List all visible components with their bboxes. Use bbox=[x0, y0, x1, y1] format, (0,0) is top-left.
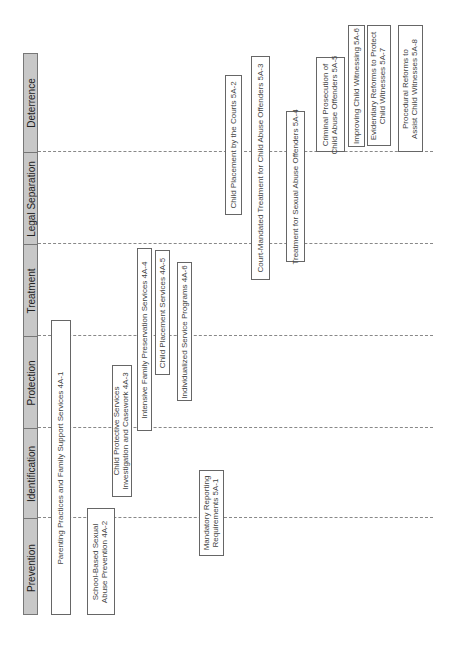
header-label: Deterrence bbox=[25, 78, 36, 127]
dashed-divider bbox=[38, 243, 433, 244]
program-label: Treatment for Sexual Abuse Offenders 5A-… bbox=[291, 109, 300, 264]
program-label: Evidentiary Reforms to Protect Child Wit… bbox=[370, 31, 388, 139]
program-label: Individualized Service Programs 4A-6 bbox=[180, 265, 189, 398]
program-box-4a-6: Individualized Service Programs 4A-6 bbox=[177, 262, 192, 401]
program-box-5a-5: Criminal Prosecution of Child Abuse Offe… bbox=[316, 57, 345, 152]
program-label: Intensive Family Preservation Services 4… bbox=[140, 261, 149, 418]
header-identification: Identification bbox=[24, 428, 37, 518]
program-box-5a-4: Treatment for Sexual Abuse Offenders 5A-… bbox=[286, 111, 305, 262]
program-label: Improving Child Witnessing 5A-6 bbox=[352, 28, 361, 144]
category-header-bar: DeterrenceLegal SeparationTreatmentProte… bbox=[23, 53, 38, 615]
header-label: Protection bbox=[25, 360, 36, 405]
dashed-divider bbox=[38, 427, 433, 428]
program-label: Child Protective Services Investigation … bbox=[113, 372, 131, 489]
dashed-divider bbox=[38, 335, 433, 336]
header-label: Treatment bbox=[25, 268, 36, 313]
program-box-5a-1: Mandatory Reporting Requirements 5A-1 bbox=[199, 470, 224, 556]
header-legal-separation: Legal Separation bbox=[24, 152, 37, 244]
program-box-4a-5: Child Placement Services 4A-5 bbox=[155, 250, 170, 375]
program-box-5a-6: Improving Child Witnessing 5A-6 bbox=[348, 25, 365, 147]
program-box-5a-2: Child Placement by the Courts 5A-2 bbox=[225, 75, 242, 215]
header-label: Legal Separation bbox=[25, 161, 36, 237]
program-box-4a-3: Child Protective Services Investigation … bbox=[112, 365, 132, 497]
header-label: Prevention bbox=[25, 544, 36, 592]
program-label: Mandatory Reporting Requirements 5A-1 bbox=[203, 476, 221, 551]
program-label: Criminal Prosecution of Child Abuse Offe… bbox=[322, 55, 340, 154]
header-protection: Protection bbox=[24, 336, 37, 428]
program-box-4a-1: Parenting Practices and Family Support S… bbox=[51, 320, 71, 615]
program-label: Parenting Practices and Family Support S… bbox=[57, 371, 66, 564]
program-box-4a-4: Intensive Family Preservation Services 4… bbox=[137, 248, 152, 431]
program-box-5a-3: Court-Mandated Treatment for Child Abuse… bbox=[251, 56, 270, 280]
program-box-5a-8: Procedural Reforms to Assist Child Witne… bbox=[398, 25, 423, 152]
program-label: Procedural Reforms to Assist Child Witne… bbox=[402, 38, 420, 138]
program-box-5a-7: Evidentiary Reforms to Protect Child Wit… bbox=[367, 25, 391, 146]
program-label: Court-Mandated Treatment for Child Abuse… bbox=[256, 64, 265, 273]
program-label: School-Based Sexual Abuse Prevention 4A-… bbox=[92, 520, 110, 602]
program-label: Child Placement Services 4A-5 bbox=[158, 257, 167, 367]
header-prevention: Prevention bbox=[24, 518, 37, 616]
header-treatment: Treatment bbox=[24, 244, 37, 336]
program-label: Child Placement by the Courts 5A-2 bbox=[229, 81, 238, 208]
program-box-4a-2: School-Based Sexual Abuse Prevention 4A-… bbox=[87, 508, 115, 615]
header-deterrence: Deterrence bbox=[24, 54, 37, 152]
header-label: Identification bbox=[25, 445, 36, 501]
